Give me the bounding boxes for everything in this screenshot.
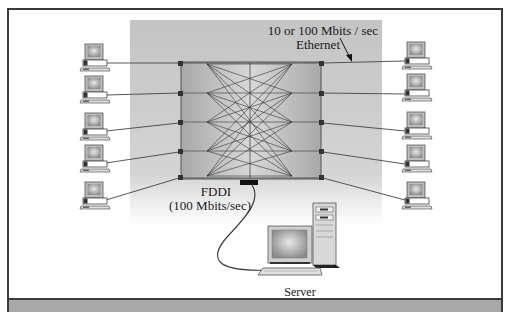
workstation-right-2 xyxy=(402,74,432,101)
workstation-left-5 xyxy=(80,182,110,209)
workstation-left-2 xyxy=(80,76,110,103)
network-diagram: 10 or 100 Mbits / sec Ethernet FDDI (100… xyxy=(0,0,508,312)
workstation-right-4 xyxy=(402,145,432,172)
fddi-label: FDDI xyxy=(176,185,256,199)
workstation-right-1 xyxy=(402,42,432,69)
diagram-canvas xyxy=(0,0,508,312)
workstation-right-3 xyxy=(402,112,432,139)
ethernet-label: Ethernet xyxy=(286,38,350,52)
workstation-left-1 xyxy=(80,44,110,71)
workstation-right-5 xyxy=(402,182,432,209)
fddi-speed-label: (100 Mbits/sec) xyxy=(160,199,260,213)
workstation-left-3 xyxy=(80,113,110,140)
switch xyxy=(178,61,324,185)
ethernet-speed-label: 10 or 100 Mbits / sec xyxy=(258,24,378,38)
workstation-left-4 xyxy=(80,145,110,172)
server-label: Server xyxy=(270,285,330,299)
